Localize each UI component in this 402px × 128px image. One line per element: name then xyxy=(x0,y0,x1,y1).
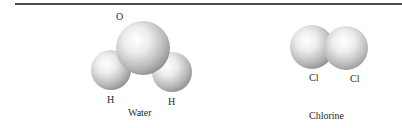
atom-label-chlorine-left: Cl xyxy=(309,73,318,83)
oxygen-atom xyxy=(116,21,170,75)
molecule-diagram xyxy=(0,0,402,128)
molecule-name-water: Water xyxy=(128,108,152,118)
atom-label-chlorine-right: Cl xyxy=(350,74,359,84)
atom-label-hydrogen-left: H xyxy=(107,95,114,105)
atom-label-oxygen: O xyxy=(116,12,123,22)
water-molecule xyxy=(91,21,192,92)
atom-label-hydrogen-right: H xyxy=(168,97,175,107)
chlorine-atom-right xyxy=(324,26,368,70)
chlorine-molecule xyxy=(290,25,368,70)
molecule-name-chlorine: Chlorine xyxy=(309,111,344,121)
